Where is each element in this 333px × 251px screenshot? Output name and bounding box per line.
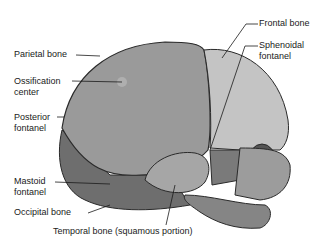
label-ossification-line1: Ossification [14, 76, 61, 87]
label-temporal-bone: Temporal bone (squamous portion) [53, 226, 193, 237]
label-frontal-bone: Frontal bone [259, 18, 310, 29]
label-mastoid-line1: Mastoid [14, 176, 46, 187]
label-occipital-bone: Occipital bone [14, 207, 71, 218]
label-posterior-line1: Posterior [14, 112, 50, 123]
face-shape [235, 148, 290, 200]
skull-diagram: Parietal bone Ossification center Poster… [0, 0, 333, 251]
frontal-bone-shape [204, 49, 289, 150]
label-parietal-bone: Parietal bone [14, 49, 67, 60]
label-mastoid-fontanel: Mastoid fontanel [14, 176, 46, 198]
label-ossification-center: Ossification center [14, 76, 61, 98]
label-posterior-line2: fontanel [14, 123, 50, 134]
label-posterior-fontanel: Posterior fontanel [14, 112, 50, 134]
label-ossification-line2: center [14, 87, 61, 98]
label-sphenoidal-line2: fontanel [259, 51, 304, 62]
label-sphenoidal-fontanel: Sphenoidal fontanel [259, 40, 304, 62]
sphenoid-region-shape [210, 150, 240, 185]
label-sphenoidal-line1: Sphenoidal [259, 40, 304, 51]
label-mastoid-line2: fontanel [14, 187, 46, 198]
